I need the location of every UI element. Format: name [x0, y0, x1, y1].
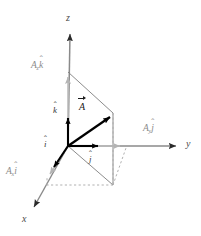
j-hat-label: j [89, 155, 92, 164]
az-unit-hat-glyph: k [39, 61, 43, 71]
i-hat-arrow [54, 146, 68, 167]
j-hat-glyph: j [89, 155, 92, 164]
vector-a-overarrow-glyph: A [79, 101, 85, 112]
y-axis-label: y [186, 139, 190, 149]
edge-ztop-to-tip [68, 72, 113, 113]
vector-components-figure: z y x A i j k Azk Ayj Axi [0, 0, 201, 236]
i-hat-glyph: i [44, 140, 47, 149]
az-component-label: Azk [31, 61, 43, 72]
ax-component-label: Axi [6, 167, 17, 178]
construction-solid-group [68, 72, 113, 185]
k-hat-glyph: k [53, 106, 57, 115]
x-axis-label: x [22, 214, 26, 224]
ax-coefficient: A [6, 166, 12, 176]
construction-dashed-group [47, 113, 126, 185]
figure-canvas [0, 0, 201, 236]
vector-a-arrow [68, 117, 110, 146]
vector-a-label: A [79, 101, 85, 112]
ay-coefficient: A [143, 123, 149, 133]
ay-component-label: Ayj [143, 124, 154, 135]
z-axis-label: z [66, 13, 70, 23]
dashed-basecorner-to-y-tip [113, 148, 126, 185]
az-coefficient: A [31, 60, 37, 70]
ay-unit-hat-glyph: j [151, 124, 154, 134]
ax-unit-hat-glyph: i [14, 167, 17, 177]
k-hat-label: k [53, 106, 57, 115]
i-hat-label: i [44, 140, 47, 149]
